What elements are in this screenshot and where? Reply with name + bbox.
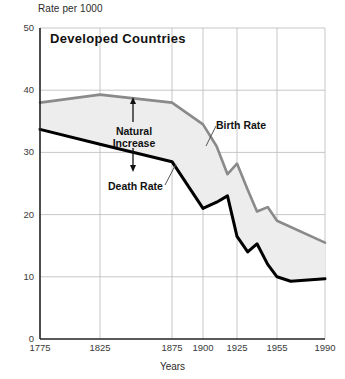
natural-increase-line2: Increase bbox=[113, 137, 156, 149]
y-tick-label: 50 bbox=[12, 22, 34, 33]
chart-container: Rate per 1000 Developed Countries Natura… bbox=[0, 0, 345, 379]
x-tick-label: 1990 bbox=[305, 342, 345, 353]
gridlines-group bbox=[40, 28, 325, 339]
x-tick-label: 1925 bbox=[217, 342, 257, 353]
axis-frame bbox=[40, 28, 325, 339]
x-axis-caption: Years bbox=[0, 361, 345, 372]
x-tick-label: 1955 bbox=[257, 342, 297, 353]
x-tick-label: 1775 bbox=[20, 342, 60, 353]
chart-canvas bbox=[0, 0, 345, 379]
plot-title: Developed Countries bbox=[50, 31, 186, 46]
x-tick-label: 1825 bbox=[80, 342, 120, 353]
y-tick-label: 10 bbox=[12, 271, 34, 282]
y-tick-label: 30 bbox=[12, 146, 34, 157]
natural-increase-area bbox=[40, 95, 325, 282]
birth-rate-label: Birth Rate bbox=[216, 119, 266, 131]
death-rate-label: Death Rate bbox=[108, 180, 163, 192]
y-tick-label: 40 bbox=[12, 84, 34, 95]
natural-increase-label: Natural Increase bbox=[105, 125, 163, 149]
natural-increase-line1: Natural bbox=[116, 125, 152, 137]
y-tick-label: 20 bbox=[12, 209, 34, 220]
